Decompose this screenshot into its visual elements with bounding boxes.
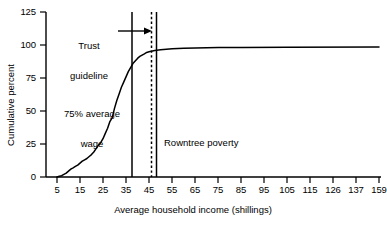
x-tick-label-25: 25 [98,185,108,195]
x-tick-label-105: 105 [279,185,295,195]
annotation-trust-line2: guideline [61,71,117,81]
x-tick-label-45: 45 [144,185,154,195]
x-tick-label-95: 95 [259,185,269,195]
x-tick-label-115: 115 [303,185,318,195]
x-tick-label-159: 159 [371,185,387,195]
y-tick-label-0: 0 [0,172,36,182]
x-tick-label-35: 35 [121,185,131,195]
x-axis-title: Average household income (shillings) [114,205,272,215]
y-tick-label-125: 125 [0,7,36,17]
x-tick-label-15: 15 [75,185,85,195]
annotation-wage-line2: wage [57,139,127,149]
y-tick-label-100: 100 [0,40,36,50]
annotation-label-average-wage: 75% average wage [57,88,127,170]
annotation-trust-line1: Trust [61,41,117,51]
x-tick-label-75: 75 [213,185,223,195]
x-axis-ticks [57,177,379,183]
annotation-label-rowntree-poverty: Rowntree poverty [164,138,238,148]
x-tick-label-137: 137 [348,185,364,195]
trust-guideline-arrow [118,27,152,34]
x-tick-label-126: 126 [325,185,341,195]
chart-figure: 0 25 50 75 100 125 5 15 25 35 45 55 65 7… [0,0,387,229]
x-tick-label-65: 65 [190,185,200,195]
x-tick-label-55: 55 [167,185,177,195]
x-tick-label-85: 85 [236,185,246,195]
annotation-wage-line1: 75% average [57,109,127,119]
y-axis-ticks [40,12,46,177]
y-axis-title: Cumulative percent [6,64,16,146]
x-tick-label-5: 5 [54,185,59,195]
